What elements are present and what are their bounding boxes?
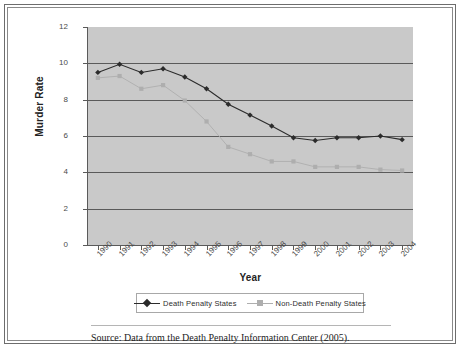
chart-legend: Death Penalty States Non-Death Penalty S… [136,293,364,313]
series-death-penalty-states [95,62,405,144]
caption-divider [91,325,391,326]
data-point [291,159,295,163]
data-point [117,62,122,67]
legend-item-non-death-penalty-states: Non-Death Penalty States [247,299,366,308]
data-point [247,112,252,117]
data-point [378,168,382,172]
data-point [118,74,122,78]
series-non-death-penalty-states [96,74,404,173]
legend-label: Non-Death Penalty States [276,299,366,308]
data-point [291,135,296,140]
y-tick-6 [83,136,87,137]
plot-area [87,27,413,245]
murder-rate-line-chart: 024681012 199019911992199319941995199619… [5,5,457,317]
data-point [313,165,317,169]
data-point [161,83,165,87]
y-tick-10 [83,63,87,64]
legend-item-death-penalty-states: Death Penalty States [134,299,236,308]
data-point [226,145,230,149]
y-tick-0 [83,245,87,246]
legend-marker-diamond-icon [134,299,160,307]
data-point [378,133,383,138]
data-point [334,135,339,140]
y-axis-title: Murder Rate [34,67,45,147]
y-axis-line [87,27,88,246]
data-point [95,70,100,75]
data-point [357,165,361,169]
x-axis-title: Year [87,272,414,283]
data-point [182,74,187,79]
data-point [248,152,252,156]
figure-frame: 024681012 199019911992199319941995199619… [4,4,456,344]
data-point [400,168,404,172]
y-tick-label-12: 12 [38,23,68,31]
y-tick-2 [83,209,87,210]
data-point [96,76,100,80]
y-tick-label-4: 4 [38,168,68,176]
y-tick-label-0: 0 [38,241,68,249]
data-point [160,66,165,71]
y-tick-8 [83,100,87,101]
data-point [270,159,274,163]
series-line [98,76,402,170]
y-tick-label-2: 2 [38,205,68,213]
data-point [356,135,361,140]
y-tick-4 [83,172,87,173]
data-point [183,98,187,102]
source-note: Source: Data from the Death Penalty Info… [91,332,421,343]
data-point [139,70,144,75]
legend-label: Death Penalty States [163,299,236,308]
data-point [335,165,339,169]
legend-marker-square-icon [247,299,273,307]
series-layer [87,27,413,245]
y-tick-12 [83,27,87,28]
series-line [98,64,402,140]
data-point [399,137,404,142]
data-point [313,138,318,143]
data-point [204,119,208,123]
data-point [269,123,274,128]
data-point [139,87,143,91]
